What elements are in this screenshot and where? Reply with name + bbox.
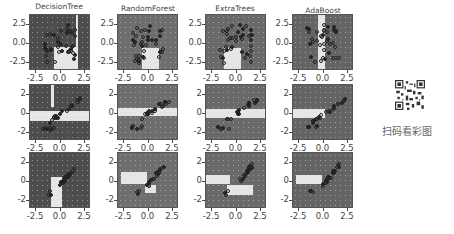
- plot-panel-r2-randomforest: [117, 84, 178, 140]
- data-point: [321, 184, 325, 188]
- y-tick-label: 2: [265, 156, 289, 166]
- x-tick-label: 0.0: [225, 211, 247, 221]
- data-point: [314, 125, 318, 129]
- plot-panel-r3-decisiontree: [29, 152, 90, 208]
- data-point: [331, 107, 335, 111]
- x-tick-mark: [323, 140, 324, 143]
- y-tick-mark: [202, 162, 205, 163]
- y-tick-mark: [114, 113, 117, 114]
- y-tick-label: 2: [178, 156, 202, 166]
- x-tick-label: 0.0: [137, 211, 159, 221]
- x-tick-mark: [35, 208, 36, 211]
- y-tick-label: 2: [2, 156, 26, 166]
- data-point: [70, 103, 74, 107]
- data-point: [59, 29, 63, 33]
- x-tick-mark: [347, 70, 348, 73]
- data-point: [65, 174, 69, 178]
- data-point: [332, 28, 336, 32]
- x-tick-label: -2.5: [24, 211, 46, 221]
- qr-code-label: 扫码看彩图: [382, 123, 432, 138]
- y-tick-label: -2: [265, 194, 289, 204]
- x-tick-label: -2.5: [112, 73, 134, 83]
- y-tick-label: 2.5: [2, 18, 26, 28]
- x-tick-label: -2.5: [200, 73, 222, 83]
- x-tick-mark: [172, 208, 173, 211]
- x-tick-mark: [60, 208, 61, 211]
- x-tick-mark: [60, 140, 61, 143]
- y-tick-mark: [202, 62, 205, 63]
- y-tick-mark: [114, 181, 117, 182]
- x-tick-mark: [123, 70, 124, 73]
- data-point: [47, 193, 51, 197]
- y-tick-label: -2: [2, 126, 26, 136]
- y-tick-mark: [26, 113, 29, 114]
- y-tick-label: 2.5: [178, 18, 202, 28]
- data-point: [143, 28, 147, 32]
- data-point: [313, 60, 317, 64]
- x-tick-mark: [60, 70, 61, 73]
- x-tick-mark: [148, 208, 149, 211]
- y-tick-mark: [114, 200, 117, 201]
- y-tick-mark: [202, 181, 205, 182]
- x-tick-mark: [236, 208, 237, 211]
- data-point: [250, 33, 254, 37]
- y-tick-label: 0: [265, 107, 289, 117]
- x-tick-mark: [298, 70, 299, 73]
- y-tick-mark: [202, 94, 205, 95]
- y-tick-label: 2.5: [90, 18, 114, 28]
- y-tick-mark: [26, 132, 29, 133]
- x-tick-mark: [236, 140, 237, 143]
- column-title-decisiontree: DecisionTree: [14, 2, 104, 11]
- y-tick-mark: [26, 94, 29, 95]
- plot-panel-r3-extratrees: [205, 152, 266, 208]
- y-tick-label: 0: [90, 175, 114, 185]
- x-tick-label: 2.5: [249, 211, 271, 221]
- plot-panel-r1-extratrees: [205, 14, 266, 70]
- y-tick-label: 0: [2, 175, 26, 185]
- data-point: [336, 102, 340, 106]
- x-tick-label: 0.0: [312, 73, 334, 83]
- data-point: [144, 43, 148, 47]
- y-tick-label: 2: [90, 88, 114, 98]
- y-tick-mark: [26, 162, 29, 163]
- y-tick-mark: [202, 132, 205, 133]
- data-point: [327, 176, 331, 180]
- x-tick-label: -2.5: [200, 211, 222, 221]
- data-point: [52, 126, 56, 130]
- mesh-grid: [293, 85, 352, 139]
- y-tick-mark: [289, 94, 292, 95]
- x-tick-mark: [172, 140, 173, 143]
- x-tick-label: 2.5: [161, 211, 183, 221]
- plot-panel-r2-extratrees: [205, 84, 266, 140]
- y-tick-label: 2: [90, 156, 114, 166]
- y-tick-label: 0: [2, 107, 26, 117]
- y-tick-label: 2.5: [265, 18, 289, 28]
- y-tick-label: 0: [178, 107, 202, 117]
- data-point: [317, 115, 321, 119]
- y-tick-mark: [289, 132, 292, 133]
- plot-panel-r3-adaboost: [292, 152, 353, 208]
- y-tick-label: 2: [2, 88, 26, 98]
- x-tick-mark: [323, 208, 324, 211]
- data-point: [45, 60, 49, 64]
- x-tick-mark: [323, 70, 324, 73]
- x-tick-mark: [298, 140, 299, 143]
- data-point: [139, 29, 143, 33]
- data-point: [163, 100, 167, 104]
- x-tick-label: 2.5: [73, 73, 95, 83]
- x-tick-mark: [84, 70, 85, 73]
- y-tick-label: 0.0: [2, 37, 26, 47]
- data-point: [229, 117, 233, 121]
- y-tick-label: -2: [178, 194, 202, 204]
- y-tick-label: -2: [2, 194, 26, 204]
- x-tick-mark: [35, 70, 36, 73]
- data-point: [150, 38, 154, 42]
- x-tick-mark: [148, 70, 149, 73]
- data-point: [158, 29, 162, 33]
- data-point: [49, 47, 53, 51]
- x-tick-label: 0.0: [137, 73, 159, 83]
- data-point: [249, 28, 253, 32]
- y-tick-mark: [114, 62, 117, 63]
- y-tick-mark: [26, 62, 29, 63]
- data-point: [250, 165, 254, 169]
